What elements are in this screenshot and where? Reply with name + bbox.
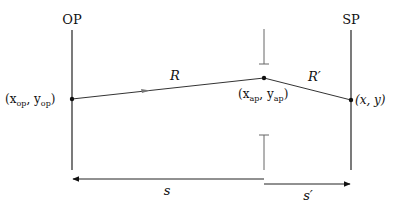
- s-label: s: [164, 183, 171, 198]
- sp-point-label: (x, y): [355, 93, 386, 107]
- op-point-label: (xop, yop): [5, 92, 55, 108]
- s-prime-label: s′: [303, 188, 313, 203]
- source-plane-label: SP: [342, 12, 360, 27]
- R-label: R: [169, 68, 180, 83]
- object-plane-label: OP: [62, 12, 82, 27]
- ray-R: [72, 78, 264, 99]
- op-point: [70, 97, 74, 101]
- sp-point: [349, 98, 353, 102]
- optics-diagram: OP SP R R′ (xop, yop) (xap, yap) (x, y) …: [0, 0, 396, 206]
- ap-point: [262, 76, 266, 80]
- ap-point-label: (xap, yap): [238, 87, 288, 103]
- R-prime-label: R′: [307, 69, 321, 84]
